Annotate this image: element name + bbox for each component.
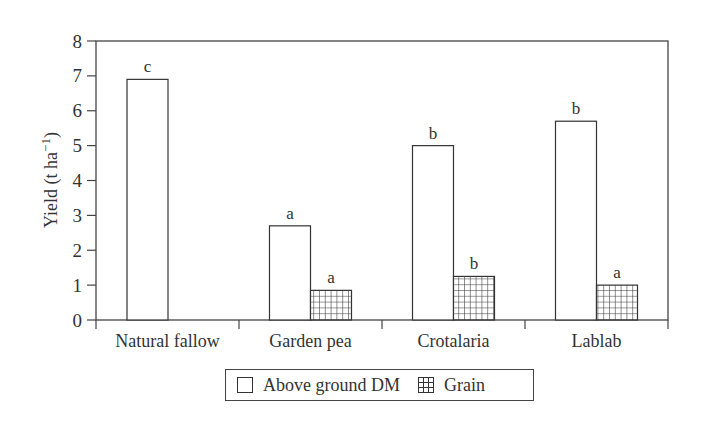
x-category-label: Crotalaria bbox=[418, 331, 490, 351]
bar-chart: 012345678 Natural fallowGarden peaCrotal… bbox=[0, 0, 704, 430]
y-axis-title: Yield (t ha−1) bbox=[38, 132, 62, 228]
significance-letter: b bbox=[470, 254, 479, 273]
bars: caabbba bbox=[127, 57, 638, 320]
bar-grain bbox=[597, 285, 638, 320]
bar-grain bbox=[454, 276, 495, 320]
bar-dm bbox=[270, 226, 311, 320]
y-tick-label: 4 bbox=[73, 170, 83, 191]
y-axis: 012345678 bbox=[73, 31, 97, 331]
open-square-swatch-icon bbox=[237, 377, 253, 393]
legend-label-dm: Above ground DM bbox=[263, 375, 400, 396]
y-tick-label: 6 bbox=[73, 100, 83, 121]
legend-item-grain: Grain bbox=[418, 375, 485, 396]
bar-grain bbox=[311, 290, 352, 320]
x-category-label: Natural fallow bbox=[115, 331, 219, 351]
significance-letter: b bbox=[429, 124, 438, 143]
grid-hatch-swatch-icon bbox=[418, 377, 434, 393]
significance-letter: c bbox=[144, 57, 152, 76]
x-category-label: Garden pea bbox=[269, 331, 351, 351]
legend-item-dm: Above ground DM bbox=[237, 375, 400, 396]
x-category-label: Lablab bbox=[572, 331, 622, 351]
y-tick-label: 3 bbox=[73, 205, 83, 226]
bar-dm bbox=[413, 146, 454, 320]
y-tick-label: 8 bbox=[73, 31, 83, 52]
legend-label-grain: Grain bbox=[444, 375, 485, 396]
y-tick-label: 2 bbox=[73, 240, 83, 261]
y-tick-label: 7 bbox=[73, 65, 83, 86]
y-tick-label: 1 bbox=[73, 275, 83, 296]
y-tick-label: 5 bbox=[73, 135, 83, 156]
significance-letter: a bbox=[286, 204, 294, 223]
legend: Above ground DM Grain bbox=[225, 369, 534, 401]
significance-letter: a bbox=[613, 263, 621, 282]
x-axis: Natural fallowGarden peaCrotalariaLablab bbox=[96, 320, 668, 351]
significance-letter: b bbox=[572, 99, 581, 118]
significance-letter: a bbox=[327, 268, 335, 287]
y-tick-label: 0 bbox=[73, 310, 83, 331]
bar-dm bbox=[127, 79, 168, 320]
bar-dm bbox=[556, 121, 597, 320]
